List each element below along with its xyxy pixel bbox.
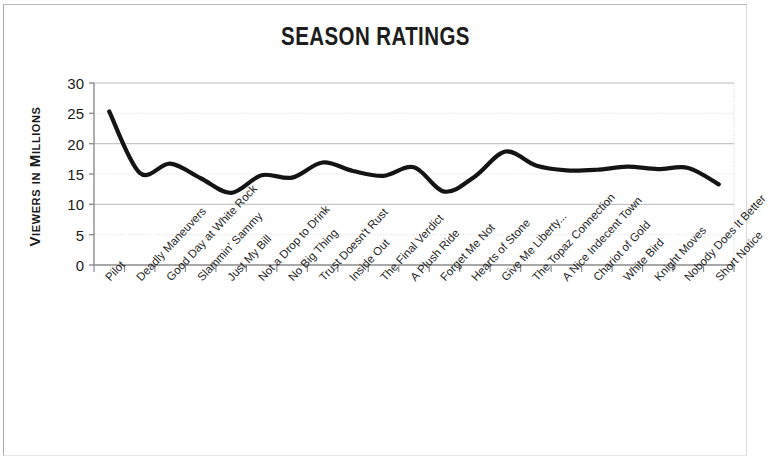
y-tick-label: 20	[50, 135, 84, 152]
y-tick-label: 15	[50, 166, 84, 183]
y-tick-label: 0	[50, 257, 84, 274]
y-tick-label: 30	[50, 75, 84, 92]
y-tick-label: 25	[50, 105, 84, 122]
y-tick-label: 10	[50, 196, 84, 213]
data-series-line	[109, 112, 719, 193]
y-tick-marks	[89, 83, 94, 265]
y-tick-label: 5	[50, 226, 84, 243]
